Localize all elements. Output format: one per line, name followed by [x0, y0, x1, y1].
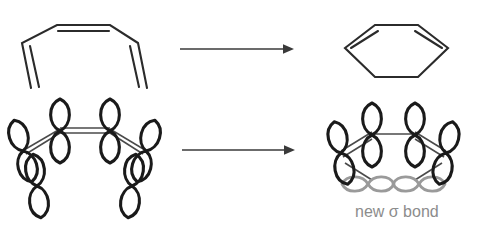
orbital-lobe-top	[101, 99, 120, 131]
hexatriene-chain	[22, 25, 147, 88]
hexatriene-skeletal	[22, 25, 147, 88]
cyclohexadiene-p-orbitals	[325, 103, 462, 191]
orbital-lobe-bottom	[101, 131, 120, 163]
p-orbital	[101, 99, 120, 163]
central-pi-bond	[60, 128, 110, 133]
reaction-arrow-top	[180, 44, 294, 54]
new-sigma-bond-orbitals	[342, 177, 445, 191]
orbital-lobe-top	[325, 120, 350, 155]
orbital-lobe-bottom	[51, 131, 70, 163]
arrow-head	[283, 44, 294, 54]
p-orbital	[406, 103, 425, 167]
cyclohexadiene-skeletal	[345, 25, 448, 77]
orbital-lobe-top	[363, 103, 382, 135]
p-orbital	[51, 99, 70, 163]
reaction-arrow-bottom	[182, 145, 295, 155]
orbital-lobe-outer	[368, 177, 394, 191]
orbital-lobe-outer	[393, 177, 419, 191]
product-framework	[341, 132, 446, 180]
p-orbital	[128, 118, 164, 185]
orbital-lobe-bottom	[119, 185, 142, 219]
reaction-scheme: new σ bond	[0, 0, 483, 226]
hexagon-ring	[345, 25, 448, 77]
double-bond-inner-right	[130, 46, 139, 87]
p-orbital	[363, 103, 382, 167]
orbital-lobe-top	[51, 99, 70, 131]
hexatriene-p-orbitals	[5, 99, 164, 219]
orbital-lobe-top	[406, 103, 425, 135]
double-bond-inner-left	[30, 46, 39, 87]
orbital-lobe-top	[437, 120, 462, 155]
p-orbital	[325, 120, 357, 187]
figure-canvas: new σ bond	[0, 0, 483, 226]
orbital-lobe-bottom	[28, 185, 51, 219]
p-orbital	[5, 118, 41, 185]
p-orbital	[430, 120, 462, 187]
arrow-head	[284, 145, 295, 155]
new-sigma-bond-label: new σ bond	[355, 203, 439, 220]
